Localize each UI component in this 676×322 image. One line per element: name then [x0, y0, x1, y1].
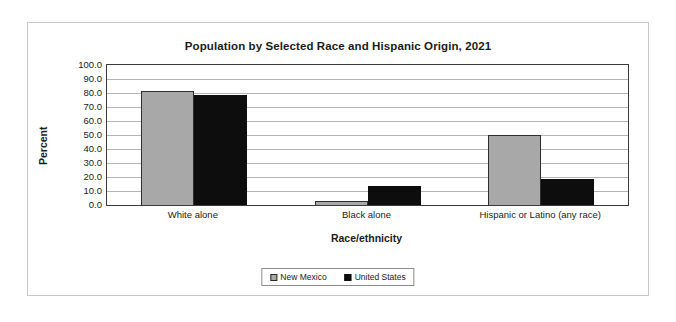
legend-swatch-icon — [270, 274, 277, 281]
x-axis-tick-labels: White aloneBlack aloneHispanic or Latino… — [106, 209, 627, 220]
plot-area — [106, 64, 629, 206]
y-axis-tick-label: 0.0 — [58, 200, 102, 209]
bar[interactable] — [541, 179, 594, 205]
bar[interactable] — [315, 201, 368, 205]
y-axis-tick-label: 60.0 — [58, 116, 102, 125]
y-axis-tick-label: 40.0 — [58, 144, 102, 153]
chart-title: Population by Selected Race and Hispanic… — [28, 40, 648, 52]
legend-swatch-icon — [345, 274, 352, 281]
y-axis-tick-label: 80.0 — [58, 88, 102, 97]
y-axis-tick-label: 70.0 — [58, 102, 102, 111]
bar[interactable] — [141, 91, 194, 205]
bar-group — [281, 65, 455, 205]
y-axis-title: Percent — [36, 111, 50, 181]
bars-layer — [107, 65, 628, 205]
x-axis-tick-label: Black alone — [280, 209, 454, 220]
y-axis-tick-label: 100.0 — [58, 60, 102, 69]
legend-label: New Mexico — [280, 272, 326, 282]
x-axis-title: Race/ethnicity — [106, 232, 627, 244]
y-axis-tick-label: 30.0 — [58, 158, 102, 167]
y-axis-tick-label: 50.0 — [58, 130, 102, 139]
y-axis-tick-label: 20.0 — [58, 172, 102, 181]
bar[interactable] — [194, 95, 247, 205]
chart-legend: New MexicoUnited States — [261, 268, 414, 286]
legend-label: United States — [355, 272, 406, 282]
y-axis-tick-label: 10.0 — [58, 186, 102, 195]
bar-group — [454, 65, 628, 205]
bar[interactable] — [488, 135, 541, 205]
bar-group — [107, 65, 281, 205]
legend-entry[interactable]: United States — [345, 272, 406, 282]
bar[interactable] — [368, 186, 421, 205]
y-axis-tick-label: 90.0 — [58, 74, 102, 83]
x-axis-tick-label: Hispanic or Latino (any race) — [453, 209, 627, 220]
legend-entry[interactable]: New Mexico — [270, 272, 326, 282]
y-axis-tick-labels: 100.090.080.070.060.050.040.030.020.010.… — [58, 64, 102, 204]
x-axis-tick-label: White alone — [106, 209, 280, 220]
chart-frame: Population by Selected Race and Hispanic… — [27, 22, 649, 296]
